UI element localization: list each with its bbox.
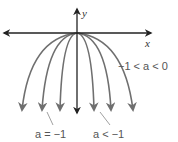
curve-narrow-right — [77, 33, 94, 110]
label-a-lt-neg1: a < −1 — [93, 128, 124, 140]
y-axis-label: y — [81, 7, 87, 19]
curve-wide-left — [22, 33, 77, 110]
label-between: −1 < a < 0 — [118, 60, 168, 72]
parabola-diagram: y x −1 < a < 0 a = −1 a < −1 — [0, 0, 178, 142]
leader-a-eq-neg1 — [47, 112, 53, 125]
x-axis-label: x — [144, 37, 150, 49]
curve-narrow-left — [60, 33, 77, 110]
curve-mid-left — [42, 33, 77, 110]
label-a-eq-neg1: a = −1 — [35, 128, 66, 140]
leader-a-lt-neg1 — [100, 112, 110, 125]
